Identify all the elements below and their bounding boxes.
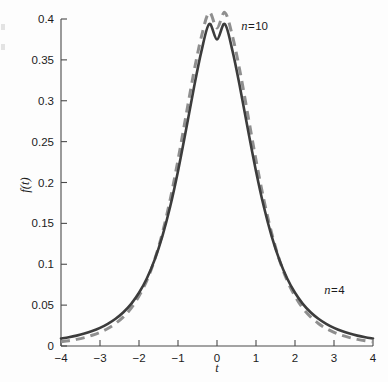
x-axis-title: t: [215, 361, 219, 375]
annotation-symbol: n: [241, 19, 247, 33]
y-tick-label: 0.3: [38, 95, 54, 107]
annotation-symbol: n: [324, 283, 330, 297]
y-tick-label: 0.35: [32, 54, 54, 66]
y-axis-title: f(t): [18, 177, 32, 192]
y-tick-label: 0.25: [32, 136, 54, 148]
x-tick-label: 2: [292, 352, 298, 364]
x-tick-label: −3: [93, 352, 106, 364]
y-tick-label: 0.05: [32, 299, 54, 311]
page-edge-artifact-top: [1, 24, 5, 30]
x-tick-label: 3: [331, 352, 337, 364]
y-tick-label: 0: [48, 340, 54, 352]
y-tick-label: 0.1: [38, 258, 54, 270]
page-edge-artifact-bottom: [1, 44, 5, 50]
series-annotation-label: n=4: [324, 283, 345, 297]
x-tick-label: 4: [370, 352, 377, 364]
annotation-equals: =: [248, 20, 255, 32]
chart-figure: 00.050.10.150.20.250.30.350.4 −4−3−2−101…: [0, 0, 388, 382]
y-tick-label: 0.4: [38, 13, 55, 25]
annotation-value: 10: [255, 20, 268, 32]
x-tick-label: −2: [132, 352, 145, 364]
y-tick-label: 0.2: [38, 177, 54, 189]
x-tick-label: −1: [171, 352, 184, 364]
x-tick-label: −4: [54, 352, 68, 364]
series-annotation-label: n=10: [241, 19, 268, 33]
y-tick-label: 0.15: [32, 217, 54, 229]
annotation-equals: =: [331, 284, 338, 296]
student-t-density-chart: 00.050.10.150.20.250.30.350.4 −4−3−2−101…: [0, 0, 388, 382]
x-tick-label: 1: [253, 352, 259, 364]
annotation-value: 4: [338, 284, 345, 296]
